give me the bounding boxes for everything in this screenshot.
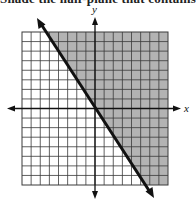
- coordinate-graph: x y: [0, 0, 196, 204]
- y-axis-down-arrow-icon: [92, 191, 98, 199]
- y-axis-up-arrow-icon: [92, 17, 98, 25]
- x-axis-left-arrow-icon: [7, 106, 15, 112]
- x-axis-right-arrow-icon: [173, 106, 181, 112]
- y-axis-label: y: [91, 3, 97, 15]
- x-axis-label: x: [183, 102, 189, 114]
